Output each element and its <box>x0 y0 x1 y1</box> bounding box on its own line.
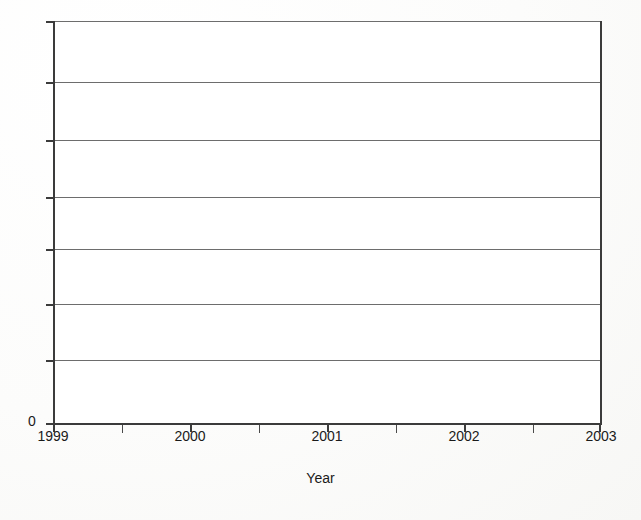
x-axis-tick-label: 2003 <box>571 428 631 444</box>
x-axis-tick-label: 2002 <box>434 428 494 444</box>
gridline <box>53 304 601 305</box>
plot-area <box>53 21 601 424</box>
x-axis-tick-label: 1999 <box>23 428 83 444</box>
gridline <box>53 249 601 250</box>
x-axis-minor-tick <box>533 425 534 433</box>
x-axis-title: Year <box>0 470 641 486</box>
plot-frame-right-border <box>600 21 602 425</box>
gridline <box>53 140 601 141</box>
x-axis-minor-tick <box>396 425 397 433</box>
gridline <box>53 21 601 22</box>
gridline <box>53 360 601 361</box>
y-axis-line <box>53 21 55 425</box>
chart-figure: 0 19992000200120022003 Year <box>0 0 641 520</box>
gridline <box>53 82 601 83</box>
x-axis-tick-label: 2000 <box>160 428 220 444</box>
x-axis-tick-label: 2001 <box>297 428 357 444</box>
x-axis-minor-tick <box>122 425 123 433</box>
y-axis-zero-label: 0 <box>28 413 36 429</box>
gridline <box>53 197 601 198</box>
x-axis-minor-tick <box>259 425 260 433</box>
x-axis-line <box>53 423 602 425</box>
